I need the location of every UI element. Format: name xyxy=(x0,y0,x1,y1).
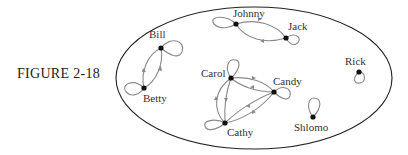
label-betty: Betty xyxy=(143,92,167,104)
label-jack: Jack xyxy=(288,20,308,32)
node-johnny xyxy=(233,21,238,26)
label-bill: Bill xyxy=(149,28,166,40)
label-candy: Candy xyxy=(273,75,302,87)
node-bill xyxy=(158,45,163,50)
edge-carol-candy xyxy=(231,78,274,92)
node-shlomo xyxy=(310,114,315,119)
label-johnny: Johnny xyxy=(233,7,265,19)
loop-candy xyxy=(274,88,290,99)
node-rick xyxy=(356,69,361,74)
edge-johnny-jack xyxy=(236,22,286,38)
loop-carol xyxy=(227,60,239,78)
node-carol xyxy=(228,75,233,80)
label-carol: Carol xyxy=(201,67,225,79)
node-cathy xyxy=(222,120,227,125)
node-jack xyxy=(283,35,288,40)
loop-shlomo xyxy=(309,98,320,117)
node-candy xyxy=(271,89,276,94)
label-cathy: Cathy xyxy=(227,126,254,138)
arrow-carol-cathy xyxy=(224,98,228,102)
loop-bill xyxy=(161,41,183,56)
loop-betty xyxy=(125,83,144,95)
label-shlomo: Shlomo xyxy=(294,121,329,133)
loop-cathy xyxy=(205,120,225,129)
relation-graph: Bill Betty Johnny Jack Carol Candy Cathy… xyxy=(0,0,408,155)
edge-candy-carol xyxy=(231,78,274,92)
label-rick: Rick xyxy=(345,55,366,67)
node-betty xyxy=(141,85,146,90)
edge-jack-johnny xyxy=(236,24,286,41)
